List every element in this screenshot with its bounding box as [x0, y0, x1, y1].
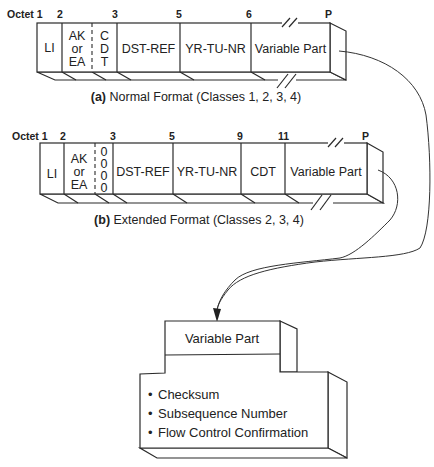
field-li: LI: [44, 41, 54, 55]
field-ea: EA: [71, 178, 88, 192]
field-cdt-t: T: [101, 55, 109, 69]
field-li: LI: [47, 167, 57, 181]
field-ak: AK: [71, 152, 88, 166]
field-variable-part: Variable Part: [255, 42, 327, 56]
octet-label: 5: [176, 8, 182, 20]
octet-label: 5: [169, 130, 175, 142]
field-cdt-d: D: [100, 42, 109, 56]
bullet-icon: •: [148, 406, 153, 421]
field-yr-tu-nr: YR-TU-NR: [177, 165, 237, 179]
variable-part-box: Variable Part • Checksum • Subsequence N…: [140, 321, 347, 458]
octet-label: Octet 1: [12, 130, 48, 142]
box-right-face: [328, 372, 347, 458]
field-zero-bit: 0: [101, 181, 108, 195]
octet-label: 11: [278, 130, 289, 142]
field-dst-ref: DST-REF: [116, 165, 170, 179]
octet-label: 3: [110, 130, 116, 142]
caption-a: (a) Normal Format (Classes 1, 2, 3, 4): [91, 90, 301, 104]
extended-format-figure: Octet 1 2 3 5 9 11 P LI AK or EA 0 0 0: [12, 130, 383, 227]
right-face: [367, 143, 383, 203]
box-bottom-face: [140, 448, 347, 458]
tpdu-format-diagram: Octet 1 2 3 5 6 P LI AK or EA: [0, 0, 434, 467]
bullet-icon: •: [148, 425, 153, 440]
item-flow-control-confirmation: Flow Control Confirmation: [158, 425, 308, 440]
field-ak: AK: [69, 29, 86, 43]
octet-label: P: [325, 8, 332, 20]
tab-right-face: [280, 321, 297, 372]
variable-part-title: Variable Part: [185, 331, 260, 346]
octet-label: 9: [237, 130, 243, 142]
field-cdt-c: C: [100, 29, 109, 43]
octet-label: Octet 1: [7, 8, 43, 20]
octet-label: 3: [112, 8, 118, 20]
octet-label: 2: [57, 8, 63, 20]
field-or: or: [73, 165, 84, 179]
caption-b: (b) Extended Format (Classes 2, 3, 4): [94, 213, 304, 227]
field-dst-ref: DST-REF: [122, 42, 176, 56]
field-yr-tu-nr: YR-TU-NR: [185, 42, 245, 56]
bullet-icon: •: [148, 387, 153, 402]
field-cdt: CDT: [250, 165, 276, 179]
field-or: or: [71, 42, 82, 56]
item-subsequence-number: Subsequence Number: [158, 406, 288, 421]
field-variable-part: Variable Part: [290, 165, 362, 179]
item-checksum: Checksum: [158, 387, 219, 402]
octet-label: 6: [246, 8, 252, 20]
arrowhead-icon: [213, 308, 221, 322]
octet-label: 2: [60, 130, 66, 142]
field-ea: EA: [69, 55, 86, 69]
octet-label: P: [362, 130, 369, 142]
normal-format-figure: Octet 1 2 3 5 6 P LI AK or EA: [7, 8, 346, 104]
